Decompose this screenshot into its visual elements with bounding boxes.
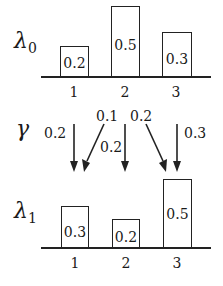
lambda1-bar-1: 0.3 (61, 206, 89, 248)
prob-1-to-1: 0.2 (44, 126, 66, 140)
lambda1-axis (41, 247, 211, 249)
prob-2-to-3: 0.2 (130, 109, 152, 123)
lambda1-tick-1: 1 (65, 255, 85, 271)
lambda1-tick-3: 3 (167, 255, 187, 271)
bar-value: 0.5 (166, 207, 188, 221)
lambda1-bar-3: 0.5 (163, 179, 192, 248)
arrow-2-to-3 (146, 124, 163, 161)
lambda1-subscript: 1 (28, 210, 37, 226)
lambda1-bar-2: 0.2 (112, 219, 140, 248)
lambda1-label: λ1 (14, 200, 37, 222)
bar-value: 0.3 (64, 225, 86, 239)
lambda1-tick-2: 2 (116, 255, 136, 271)
lambda-symbol: λ (14, 198, 28, 223)
prob-2-to-2: 0.2 (100, 140, 122, 154)
prob-2-to-1: 0.1 (96, 109, 118, 123)
prob-3-to-3: 0.3 (184, 126, 206, 140)
bar-value: 0.2 (115, 230, 137, 244)
